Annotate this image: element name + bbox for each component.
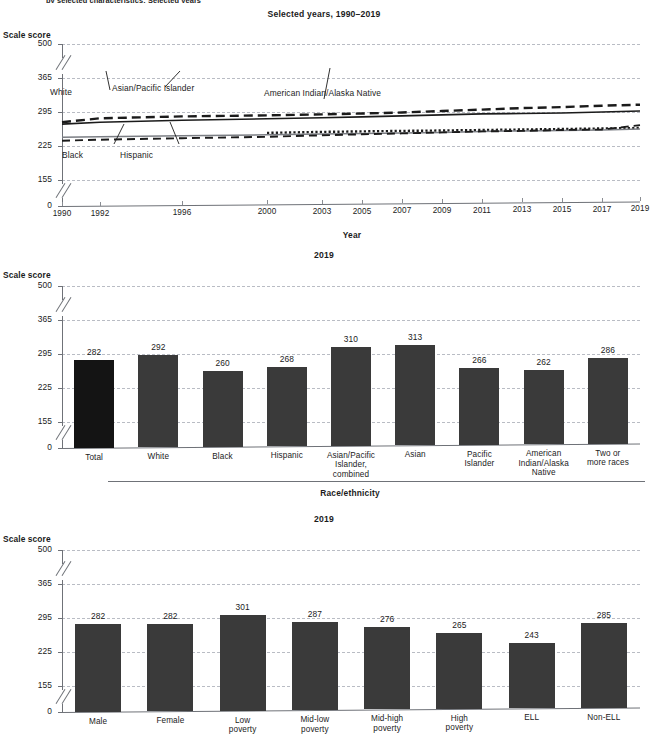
bar-mid-high-poverty[interactable] [364, 627, 410, 709]
bar-american-indian-alaska-native[interactable] [524, 370, 564, 444]
gridline [62, 550, 640, 551]
panel2-plot-area: 0155225295365500282Total292White260Black… [62, 286, 640, 448]
bar-asian[interactable] [395, 345, 435, 445]
bar-high-poverty[interactable] [436, 633, 482, 709]
bar-low-poverty[interactable] [220, 615, 266, 710]
series-label: Hispanic [120, 150, 153, 160]
line-series-layer [62, 44, 640, 206]
x-category-label: AmericanIndian/AlaskaNative [509, 449, 579, 478]
x-category-label: Total [59, 453, 129, 463]
gridline [62, 584, 640, 585]
x-category-label: Two ormore races [573, 449, 643, 468]
bar-white[interactable] [138, 355, 178, 447]
x-tick-mark [640, 197, 641, 201]
x-category-label: Non-ELL [565, 713, 643, 723]
y-tick-label: 500 [8, 545, 52, 554]
x-category-label: Male [59, 717, 137, 727]
series-label: White [50, 87, 72, 97]
race-ethnicity-bracket [108, 481, 645, 482]
y-tick-label: 365 [8, 73, 52, 82]
x-tick-label: 1990 [42, 209, 82, 219]
y-tick-label: 225 [8, 647, 52, 656]
x-tick-label: 2013 [502, 205, 542, 215]
x-category-label: Mid-lowpoverty [276, 715, 354, 734]
panel2-x-axis-label: Race/ethnicity [160, 488, 540, 498]
bar-asian-pacific-islander-combined[interactable] [331, 347, 371, 446]
axis-break-mark [56, 688, 72, 706]
y-tick-label: 500 [8, 39, 52, 48]
bar-value-label: 313 [389, 332, 441, 342]
y-tick-label: 0 [8, 443, 52, 452]
panel-bar-characteristics: 2019 Scale score 0155225295365500282Male… [0, 510, 648, 734]
x-tick-label: 1992 [80, 209, 120, 219]
panel2-y-axis-label: Scale score [3, 270, 51, 280]
bar-hispanic[interactable] [267, 367, 307, 446]
panel1-title: Selected years, 1990–2019 [0, 9, 648, 19]
x-category-label: Female [131, 716, 209, 726]
y-tick-mark [58, 686, 62, 687]
bar-value-label: 282 [68, 347, 120, 357]
x-category-label: Highpoverty [420, 714, 498, 733]
x-tick-label: 1996 [162, 208, 202, 218]
y-tick-mark [58, 388, 62, 389]
x-category-label: Lowpoverty [204, 716, 282, 734]
bar-value-label: 265 [433, 620, 485, 630]
bar-female[interactable] [147, 624, 193, 711]
bar-value-label: 292 [132, 342, 184, 352]
bar-value-label: 287 [289, 609, 341, 619]
series-label-leader-line [114, 124, 124, 144]
y-tick-label: 225 [8, 141, 52, 150]
x-tick-label: 2015 [542, 205, 582, 215]
axis-break-mark [56, 560, 72, 578]
y-tick-label: 155 [8, 681, 52, 690]
x-category-label: Black [187, 452, 257, 462]
y-tick-label: 365 [8, 315, 52, 324]
panel3-y-axis-label: Scale score [3, 534, 51, 544]
axis-break-mark [56, 424, 72, 442]
bar-value-label: 285 [578, 610, 630, 620]
bar-value-label: 266 [453, 355, 505, 365]
bar-pacific-islander[interactable] [459, 368, 499, 445]
panel-line-chart: Selected years, 1990–2019 Scale score 01… [0, 0, 648, 248]
y-tick-label: 155 [8, 175, 52, 184]
y-axis-line [62, 580, 63, 690]
x-tick-label: 2007 [382, 206, 422, 216]
y-tick-mark [58, 354, 62, 355]
y-tick-mark [58, 286, 62, 287]
line-series-black [62, 129, 640, 137]
bar-value-label: 276 [361, 614, 413, 624]
series-label: Black [62, 150, 83, 160]
y-tick-mark [58, 320, 62, 321]
bar-ell[interactable] [509, 643, 555, 708]
x-tick-label: 2005 [342, 207, 382, 217]
bar-mid-low-poverty[interactable] [292, 622, 338, 710]
gridline [62, 286, 640, 287]
x-category-label: ELL [493, 713, 571, 723]
bar-two-or-more-races[interactable] [588, 358, 628, 443]
panel2-title: 2019 [0, 250, 648, 260]
bar-value-label: 243 [506, 630, 558, 640]
x-tick-label: 2000 [247, 207, 287, 217]
bar-value-label: 301 [217, 602, 269, 612]
y-tick-label: 365 [8, 579, 52, 588]
panel-bar-race: 2019 Scale score 0155225295365500282Tota… [0, 248, 648, 510]
y-tick-mark [58, 618, 62, 619]
bar-value-label: 268 [261, 354, 313, 364]
series-label: Asian/Pacific Islander [112, 83, 194, 93]
bar-total[interactable] [74, 360, 114, 447]
bar-non-ell[interactable] [581, 623, 627, 708]
x-category-label: Asian/PacificIslander,combined [316, 451, 386, 480]
bar-value-label: 286 [582, 345, 634, 355]
bar-black[interactable] [203, 371, 243, 447]
x-tick-label: 2009 [422, 206, 462, 216]
x-tick-label: 2017 [582, 205, 622, 215]
y-tick-label: 500 [8, 281, 52, 290]
y-tick-mark [58, 422, 62, 423]
y-tick-mark [58, 584, 62, 585]
gridline [62, 320, 640, 321]
bar-male[interactable] [75, 624, 121, 711]
series-label: American Indian/Alaska Native [264, 88, 381, 98]
bar-value-label: 260 [197, 358, 249, 368]
y-tick-mark [58, 652, 62, 653]
x-category-label: Asian [380, 450, 450, 460]
